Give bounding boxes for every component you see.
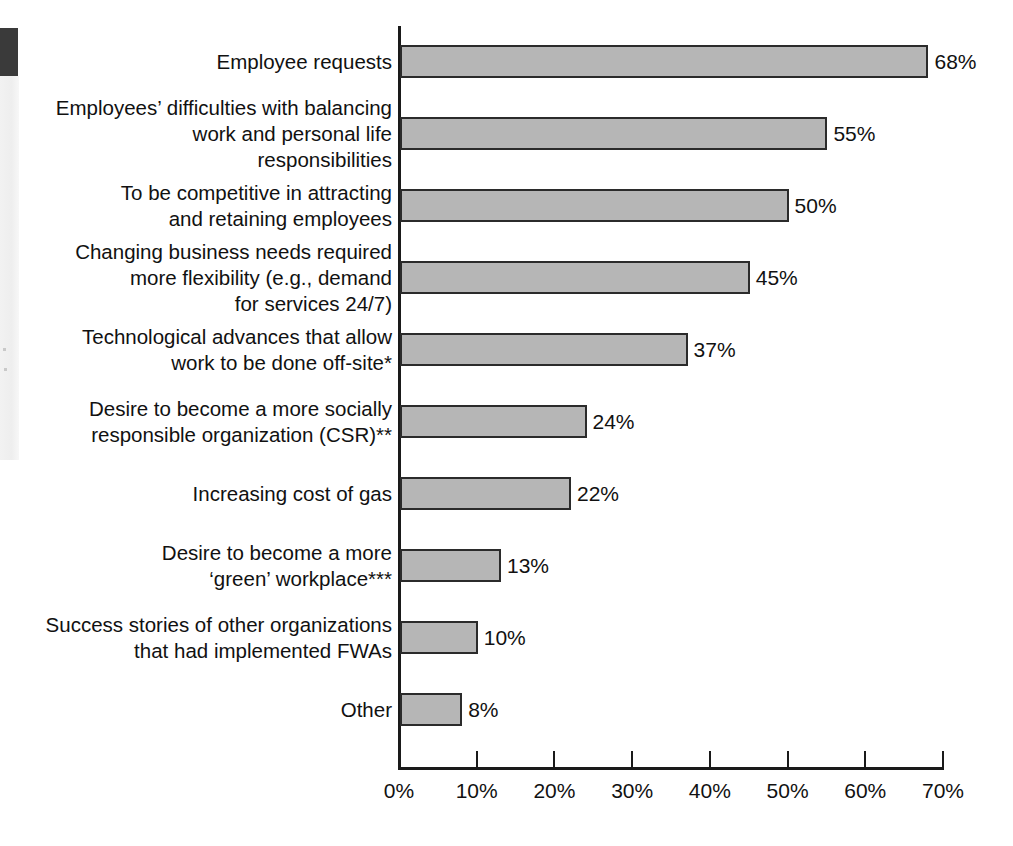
x-axis-tick bbox=[476, 751, 478, 768]
bar bbox=[400, 261, 750, 294]
bar-category-label: Other bbox=[0, 697, 392, 723]
bar-value-label: 55% bbox=[833, 117, 875, 150]
bar bbox=[400, 693, 462, 726]
bar-category-label: To be competitive in attracting and reta… bbox=[0, 180, 392, 232]
chart-page: 0%10%20%30%40%50%60%70% Employee request… bbox=[0, 0, 1013, 846]
x-axis-tick-label: 30% bbox=[597, 779, 667, 803]
x-axis-tick bbox=[942, 751, 944, 768]
x-axis-tick bbox=[787, 751, 789, 768]
horizontal-bar-chart: 0%10%20%30%40%50%60%70% Employee request… bbox=[0, 0, 1013, 846]
bar-row: Increasing cost of gas22% bbox=[0, 477, 1013, 510]
bar-row: Employees’ difficulties with balancing w… bbox=[0, 117, 1013, 150]
bar-value-label: 13% bbox=[507, 549, 549, 582]
bar-category-label: Desire to become a more socially respons… bbox=[0, 396, 392, 448]
bar bbox=[400, 477, 571, 510]
bar-category-label: Desire to become a more ‘green’ workplac… bbox=[0, 540, 392, 592]
bar-row: To be competitive in attracting and reta… bbox=[0, 189, 1013, 222]
x-axis-tick-label: 70% bbox=[908, 779, 978, 803]
bar-category-label: Changing business needs required more fl… bbox=[0, 239, 392, 317]
x-axis-tick bbox=[709, 751, 711, 768]
bar-row: Other8% bbox=[0, 693, 1013, 726]
bar bbox=[400, 117, 827, 150]
bar-value-label: 22% bbox=[577, 477, 619, 510]
bar-value-label: 50% bbox=[795, 189, 837, 222]
x-axis-tick-label: 20% bbox=[519, 779, 589, 803]
x-axis-tick-label: 50% bbox=[753, 779, 823, 803]
bar-value-label: 37% bbox=[694, 333, 736, 366]
bar-category-label: Employees’ difficulties with balancing w… bbox=[0, 95, 392, 173]
bar bbox=[400, 189, 789, 222]
bar-row: Changing business needs required more fl… bbox=[0, 261, 1013, 294]
bar-category-label: Employee requests bbox=[0, 49, 392, 75]
bar bbox=[400, 621, 478, 654]
bar-value-label: 68% bbox=[934, 45, 976, 78]
bar-category-label: Success stories of other organizations t… bbox=[0, 612, 392, 664]
bar-row: Desire to become a more ‘green’ workplac… bbox=[0, 549, 1013, 582]
bar-row: Desire to become a more socially respons… bbox=[0, 405, 1013, 438]
bar bbox=[400, 333, 688, 366]
x-axis-tick-label: 0% bbox=[364, 779, 434, 803]
bar-value-label: 10% bbox=[484, 621, 526, 654]
bar bbox=[400, 405, 587, 438]
x-axis-tick-label: 60% bbox=[830, 779, 900, 803]
bar-row: Success stories of other organizations t… bbox=[0, 621, 1013, 654]
x-axis-tick bbox=[864, 751, 866, 768]
bar-value-label: 24% bbox=[593, 405, 635, 438]
x-axis-tick-label: 10% bbox=[442, 779, 512, 803]
bar-row: Technological advances that allow work t… bbox=[0, 333, 1013, 366]
bar-row: Employee requests68% bbox=[0, 45, 1013, 78]
bar bbox=[400, 549, 501, 582]
x-axis-tick bbox=[631, 751, 633, 768]
x-axis-tick-label: 40% bbox=[675, 779, 745, 803]
bar-value-label: 8% bbox=[468, 693, 498, 726]
bar-category-label: Increasing cost of gas bbox=[0, 481, 392, 507]
x-axis-line bbox=[398, 767, 944, 770]
bar-category-label: Technological advances that allow work t… bbox=[0, 324, 392, 376]
x-axis-tick bbox=[398, 751, 400, 768]
bar-value-label: 45% bbox=[756, 261, 798, 294]
bar bbox=[400, 45, 928, 78]
x-axis-tick bbox=[553, 751, 555, 768]
